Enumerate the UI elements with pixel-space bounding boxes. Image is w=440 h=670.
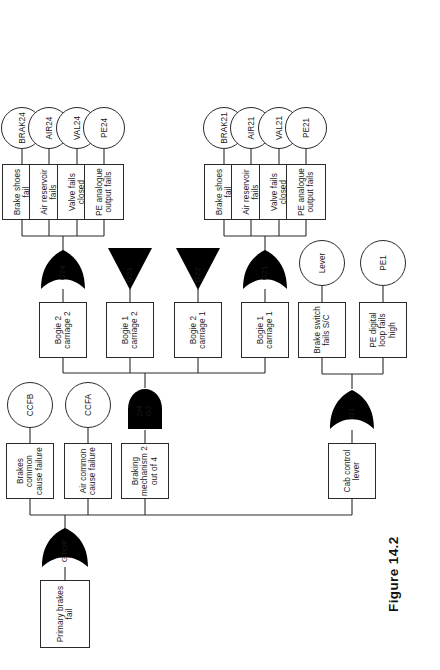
basic-event-PE1[interactable]: PE1 [360, 240, 406, 286]
or-gate-G24[interactable]: G24 [39, 248, 87, 292]
event-bogie-1-carriage-1[interactable]: Bogie 1 carriage 1 [241, 302, 289, 358]
figure-caption: Figure 14.2 [386, 536, 401, 612]
event-pe-analogue-output-fails-21[interactable]: PE analogue output fails [286, 164, 326, 220]
figure-rotation-wrapper: Primary brakes fail GTOP Brakes common c… [0, 0, 440, 670]
basic-event-PE24[interactable]: PE24 [83, 107, 125, 149]
event-pe-digital-loop-fails-high[interactable]: PE digital loop fails high [359, 302, 407, 358]
event-bogie-2-carriage-2[interactable]: Bogie 2 carriage 2 [39, 302, 87, 358]
basic-event-Lever[interactable]: Lever [299, 240, 345, 286]
transfer-gate-G22[interactable]: G22 [174, 246, 222, 292]
top-event-primary-brakes-fail[interactable]: Primary brakes fail [40, 580, 90, 648]
event-bogie-2-carriage-1[interactable]: Bogie 2 carriage 1 [174, 302, 222, 358]
or-gate-G1[interactable]: G1 [328, 388, 376, 432]
or-gate-GTOP[interactable]: GTOP [40, 526, 90, 570]
event-air-common-cause-failure[interactable]: Air common cause failure [64, 443, 112, 499]
event-brake-switch-fails-sc[interactable]: Brake switch fails S/C [298, 302, 346, 358]
basic-event-PE21[interactable]: PE21 [285, 107, 327, 149]
fault-tree-canvas: Primary brakes fail GTOP Brakes common c… [0, 0, 440, 670]
event-pe-analogue-output-fails-24[interactable]: PE analogue output fails [84, 164, 124, 220]
event-brakes-common-cause-failure[interactable]: Brakes common cause failure [6, 443, 54, 499]
event-braking-mechanism-2-out-of-4[interactable]: Braking mechanism 2 out of 4 [121, 443, 169, 499]
or-gate-G21[interactable]: G21 [241, 248, 289, 292]
event-bogie-1-carriage-2[interactable]: Bogie 1 carriage 2 [106, 302, 154, 358]
basic-event-CCFA[interactable]: CCFA [65, 382, 111, 428]
basic-event-CCFB[interactable]: CCFB [7, 382, 53, 428]
transfer-gate-G23[interactable]: G23 [106, 246, 154, 292]
vote-gate-G2[interactable]: 2/4 G2 [126, 387, 164, 431]
event-cab-control-lever[interactable]: Cab control lever [328, 443, 376, 499]
